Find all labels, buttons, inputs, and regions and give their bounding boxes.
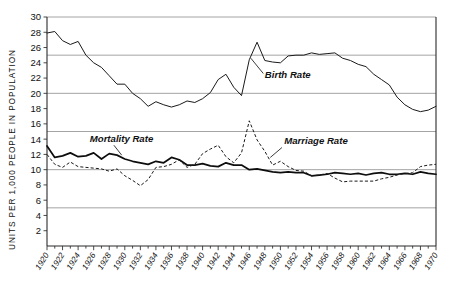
y-tick-label-30: 30 <box>30 11 41 22</box>
annotation-mortality-rate: Mortality Rate <box>90 133 154 144</box>
y-tick-label-12: 12 <box>30 149 41 160</box>
y-tick-label-4: 4 <box>36 210 41 221</box>
rates-line-chart: 24681012141618202224262830 1920192219241… <box>0 0 454 304</box>
y-tick-label-8: 8 <box>36 179 41 190</box>
y-tick-label-28: 28 <box>30 27 41 38</box>
y-tick-label-20: 20 <box>30 88 41 99</box>
annotation-birth-rate: Birth Rate <box>265 69 312 80</box>
y-tick-label-10: 10 <box>30 164 41 175</box>
chart-root: 24681012141618202224262830 1920192219241… <box>0 0 454 304</box>
y-tick-label-14: 14 <box>30 134 41 145</box>
y-tick-label-26: 26 <box>30 42 41 53</box>
y-tick-label-18: 18 <box>30 103 41 114</box>
annotation-marriage-rate: Marriage Rate <box>284 135 348 146</box>
y-tick-label-2: 2 <box>36 225 41 236</box>
y-tick-label-22: 22 <box>30 72 41 83</box>
y-tick-label-6: 6 <box>36 195 41 206</box>
y-tick-label-16: 16 <box>30 118 41 129</box>
y-tick-label-24: 24 <box>30 57 41 68</box>
y-axis-title: UNITS PER 1,000 PEOPLE IN POPULATION <box>7 49 17 250</box>
